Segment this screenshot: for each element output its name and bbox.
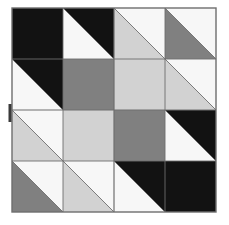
quilt-cell-r1c2 — [114, 59, 165, 110]
quilt-cell-r0c1 — [63, 8, 114, 59]
quilt-cell-r3c3-solid — [165, 161, 216, 212]
quilt-cell-r3c2 — [114, 161, 165, 212]
quilt-cell-r0c0-solid — [12, 8, 63, 59]
quilt-cell-r2c1-solid — [63, 110, 114, 161]
quilt-cell-r1c3 — [165, 59, 216, 110]
quilt-block-image: Quilt Block Pattern — [0, 0, 229, 225]
quilt-cell-r3c1 — [63, 161, 114, 212]
quilt-cell-r2c2 — [114, 110, 165, 161]
quilt-cell-r3c3 — [165, 161, 216, 212]
quilt-cell-r0c0 — [12, 8, 63, 59]
edge-tick-marker — [9, 104, 12, 122]
quilt-cell-r1c2-solid — [114, 59, 165, 110]
quilt-cell-r2c3 — [165, 110, 216, 161]
quilt-cell-r0c3 — [165, 8, 216, 59]
quilt-block-canvas — [0, 0, 229, 225]
quilt-cell-r1c1-solid — [63, 59, 114, 110]
quilt-cell-r3c0 — [12, 161, 63, 212]
quilt-cell-r2c1 — [63, 110, 114, 161]
quilt-cell-r1c1 — [63, 59, 114, 110]
quilt-cell-r1c0 — [12, 59, 63, 110]
quilt-cell-r0c2 — [114, 8, 165, 59]
quilt-cell-r2c0 — [12, 110, 63, 161]
quilt-cell-r2c2-solid — [114, 110, 165, 161]
